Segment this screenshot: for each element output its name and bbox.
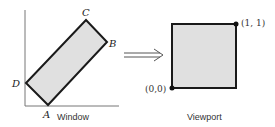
window-to-viewport-diagram: C B D A Window (1, 1) (0,0) Viewport <box>0 0 275 127</box>
viewport-caption: Viewport <box>187 112 222 122</box>
corner-label-bottom-left: (0,0) <box>145 84 166 94</box>
vertex-label-a: A <box>42 109 50 120</box>
window-rectangle <box>26 20 107 105</box>
vertex-label-b: B <box>108 38 116 49</box>
vertex-label-d: D <box>11 78 20 89</box>
window-caption: Window <box>57 112 90 122</box>
double-arrow-icon <box>124 49 163 61</box>
corner-dot-bottom-left <box>170 86 175 91</box>
vertex-label-c: C <box>82 7 90 18</box>
corner-label-top-right: (1, 1) <box>241 18 265 28</box>
viewport-square <box>172 24 236 88</box>
corner-dot-top-right <box>234 22 239 27</box>
